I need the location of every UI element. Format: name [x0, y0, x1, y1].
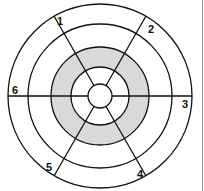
bullseye-diagram: 1 2 3 4 5 6 [0, 0, 204, 191]
segment-label-5: 5 [46, 161, 52, 173]
segment-label-1: 1 [57, 15, 63, 27]
segment-label-6: 6 [12, 84, 18, 96]
segment-label-4: 4 [137, 168, 144, 180]
segment-label-3: 3 [182, 98, 188, 110]
center-circle [88, 84, 112, 108]
segment-label-2: 2 [148, 23, 154, 35]
